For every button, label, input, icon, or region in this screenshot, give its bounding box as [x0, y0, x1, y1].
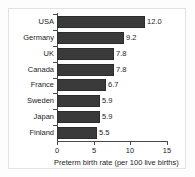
bar [57, 95, 100, 107]
category-label: Germany [23, 33, 54, 43]
x-axis-title: Preterm birth rate (per 100 live births) [54, 158, 165, 168]
bar-value-label: 7.8 [116, 49, 126, 59]
bar [57, 64, 114, 76]
category-label: Finland [29, 128, 54, 138]
x-axis-tick-label: 5 [92, 146, 96, 156]
category-label: UK [44, 49, 54, 59]
bar-row: USA12.0 [57, 16, 167, 28]
y-axis-tick [53, 78, 57, 79]
bar-row: Finland5.5 [57, 127, 167, 139]
y-axis-tick [53, 125, 57, 126]
x-axis-tick [57, 141, 58, 145]
x-axis-line [57, 141, 168, 142]
bar-row: France6.7 [57, 79, 167, 91]
bar-value-label: 5.5 [99, 128, 109, 138]
bar-row: Germany9.2 [57, 32, 167, 44]
bar-row: Sweden5.9 [57, 95, 167, 107]
bar-value-label: 5.9 [102, 112, 112, 122]
x-axis-tick-label: 15 [163, 146, 171, 156]
category-label: Japan [34, 112, 54, 122]
y-axis-tick [53, 93, 57, 94]
bar [57, 79, 106, 91]
bar [57, 48, 114, 60]
x-axis-tick [130, 141, 131, 145]
x-axis-tick [94, 141, 95, 145]
bar-row: Japan5.9 [57, 111, 167, 123]
x-axis-tick [167, 141, 168, 145]
category-label: USA [39, 17, 54, 27]
y-axis-tick [53, 109, 57, 110]
y-axis-tick [53, 30, 57, 31]
bar [57, 16, 145, 28]
bar [57, 111, 100, 123]
x-axis-tick-label: 0 [55, 146, 59, 156]
category-label: Canada [28, 65, 54, 75]
x-axis-tick-label: 10 [126, 146, 134, 156]
bar-value-label: 9.2 [126, 33, 136, 43]
category-label: Sweden [27, 96, 54, 106]
y-axis-tick [53, 14, 57, 15]
bar-value-label: 6.7 [108, 80, 118, 90]
y-axis-tick [53, 46, 57, 47]
bar-value-label: 12.0 [147, 17, 162, 27]
bar-value-label: 7.8 [116, 65, 126, 75]
bar-row: Canada7.8 [57, 64, 167, 76]
bar [57, 32, 124, 44]
y-axis-tick [53, 62, 57, 63]
category-label: France [31, 80, 54, 90]
bar-value-label: 5.9 [102, 96, 112, 106]
bar-chart-figure: USA12.0Germany9.2UK7.8Canada7.8France6.7… [0, 0, 195, 177]
bar [57, 127, 97, 139]
bar-row: UK7.8 [57, 48, 167, 60]
